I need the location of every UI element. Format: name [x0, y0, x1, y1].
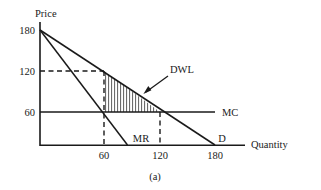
x-axis-title: Quantity — [251, 139, 288, 150]
dwl-arrow — [143, 76, 168, 94]
y-tick-60: 60 — [25, 107, 36, 118]
y-axis-title: Price — [35, 8, 57, 19]
marginal-cost-label: MC — [222, 107, 238, 118]
x-tick-180: 180 — [207, 150, 223, 161]
x-tick-60: 60 — [99, 150, 110, 161]
figure-caption: (a) — [149, 171, 161, 183]
demand-curve — [40, 30, 215, 145]
x-tick-120: 120 — [152, 150, 168, 161]
y-tick-180: 180 — [19, 25, 35, 36]
marginal-revenue-label: MR — [133, 133, 149, 144]
demand-curve-label: D — [218, 133, 226, 144]
economics-diagram: Price Quantity 180 120 60 60 120 180 D M… — [0, 0, 321, 190]
y-tick-120: 120 — [19, 66, 35, 77]
dwl-label: DWL — [170, 64, 194, 75]
